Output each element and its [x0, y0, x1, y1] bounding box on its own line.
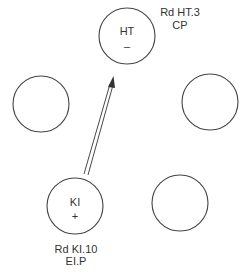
- node-ki: KI +: [47, 178, 103, 234]
- arrow-line-b: [88, 85, 113, 175]
- node-left-empty: [13, 76, 69, 132]
- diagram-canvas: HT – Rd HT.3 CP KI + Rd KI.10 EI.P: [0, 0, 247, 277]
- node-ht: HT –: [99, 8, 155, 64]
- ki-annotation-line1: Rd KI.10: [55, 243, 98, 255]
- arrowhead-icon: [108, 76, 115, 88]
- ht-annotation-line1: Rd HT.3: [160, 6, 200, 18]
- ki-annotation-line2: EI.P: [66, 255, 87, 267]
- ht-annotation-line2: CP: [172, 19, 187, 31]
- node-right-empty: [182, 74, 238, 130]
- node-ht-sign: –: [124, 40, 131, 52]
- node-ki-label: KI: [70, 196, 80, 208]
- arrow-ki-to-ht: [84, 76, 115, 175]
- node-ki-sign: +: [72, 210, 78, 222]
- node-bottom-right-empty: [152, 175, 208, 231]
- arrow-line-a: [84, 84, 110, 174]
- node-ht-label: HT: [120, 25, 135, 37]
- diagram-svg: HT – Rd HT.3 CP KI + Rd KI.10 EI.P: [0, 0, 247, 277]
